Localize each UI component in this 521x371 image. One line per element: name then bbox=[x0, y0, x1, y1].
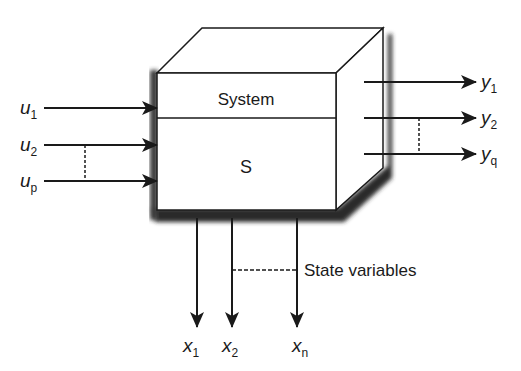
state-label-2: x2 bbox=[221, 335, 239, 360]
state-label-1: x1 bbox=[182, 335, 200, 360]
output-label-q: yq bbox=[479, 143, 497, 168]
input-label-2: u2 bbox=[20, 134, 38, 159]
input-label-1: u1 bbox=[20, 97, 38, 122]
output-label-2: y2 bbox=[479, 107, 498, 132]
input-label-p: up bbox=[20, 170, 38, 195]
inputs: u1 u2 up bbox=[20, 97, 157, 195]
system-title: System bbox=[218, 90, 275, 109]
state-variables-label: State variables bbox=[304, 261, 416, 280]
state-variables: State variables x1 x2 xn bbox=[182, 218, 417, 360]
system-box bbox=[157, 28, 383, 210]
outputs: y1 y2 yq bbox=[364, 71, 498, 168]
system-block-diagram: System S u1 u2 up y1 y2 yq State variabl… bbox=[0, 0, 521, 371]
state-label-n: xn bbox=[291, 335, 308, 360]
system-symbol: S bbox=[240, 157, 252, 177]
output-label-1: y1 bbox=[479, 71, 498, 96]
